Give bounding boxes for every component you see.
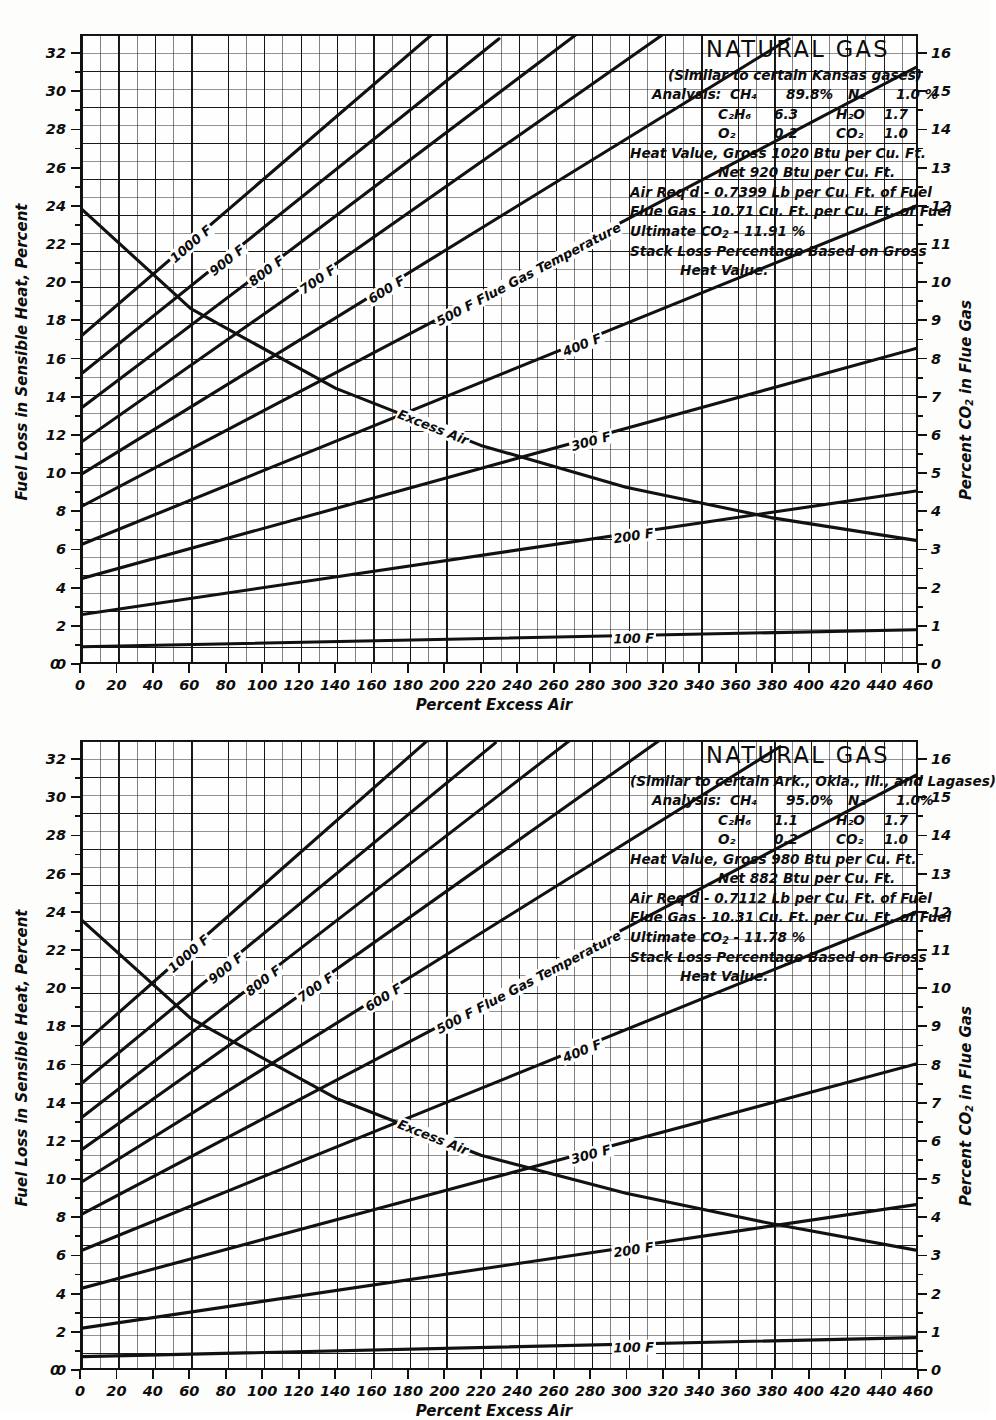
heat-value-gross: Heat Value, Gross 1020 Btu per Cu. Ft. [630,144,960,164]
heat-value-gross: Heat Value, Gross 980 Btu per Cu. Ft. [630,850,960,870]
y-axis-minor-tick-left [75,1083,80,1085]
y-axis-tick-label-left: 16 [46,351,66,367]
y-axis-tick-label-right: 8 [931,1057,941,1073]
x-axis-tick [589,1370,591,1379]
y-axis-tick-label-left: 30 [46,83,66,99]
y-axis-tick-left [71,1025,80,1027]
y-axis-tick-label-right: 3 [931,1247,941,1263]
y-axis-tick-label-right: 6 [931,1133,941,1149]
y-axis-tick-left [71,1140,80,1142]
curve-700-f [82,35,662,442]
y-axis-tick-left [71,1064,80,1066]
x-axis-tick [808,1370,810,1379]
flue-gas-volume: Flue Gas - 10.71 Cu. Ft. per Cu. Ft. of … [630,202,960,222]
y-axis-tick-right [918,472,927,474]
y-axis-minor-tick-left [75,854,80,856]
y-axis-tick-label-left: 28 [46,827,66,843]
y-axis-tick-right [918,1369,927,1371]
x-axis-tick-label: 440 [866,1383,896,1399]
x-axis-tick [480,664,482,673]
x-axis-tick-label: 60 [179,677,199,693]
analysis-row: C₂H₆6.3H₂O1.7 [630,105,960,125]
y-axis-tick-left [71,434,80,436]
x-axis-tick-label: 460 [903,677,933,693]
y-axis-tick-label-left: 24 [46,198,66,214]
annotation-block: NATURAL GAS(Similar to certain Ark., Okl… [630,742,960,987]
y-axis-minor-tick-left [75,339,80,341]
y-axis-tick-right [918,281,927,283]
x-axis-tick-label: 300 [611,677,641,693]
y-axis-minor-tick-right [918,453,923,455]
chart-subtitle: (Similar to certain Ark., Okla., Ill., a… [630,773,960,789]
y-axis-minor-tick-left [75,892,80,894]
x-axis-tick-label: 40 [143,677,163,693]
y-axis-tick-left [71,90,80,92]
ultimate-co2: Ultimate CO2 - 11.91 % [630,222,960,242]
y-axis-tick-right [918,434,927,436]
y-axis-tick-label-left: 26 [46,866,66,882]
x-axis-tick [553,1370,555,1379]
curve-800-f [82,741,572,1117]
x-axis-tick [917,664,919,673]
y-axis-minor-tick-right [918,529,923,531]
y-axis-minor-tick-left [75,186,80,188]
y-axis-minor-tick-left [75,224,80,226]
y-axis-minor-tick-left [75,777,80,779]
y-axis-tick-left [71,52,80,54]
y-axis-tick-label-right: 6 [931,427,941,443]
x-axis-tick-label: 20 [106,1383,126,1399]
analysis-row: C₂H₆1.1H₂O1.7 [630,811,960,831]
y-axis-tick-left [71,987,80,989]
y-axis-tick-left [71,319,80,321]
y-axis-tick-left [71,549,80,551]
x-axis-tick [626,1370,628,1379]
x-axis-tick-label: 420 [830,677,860,693]
x-axis-tick [79,664,81,673]
x-axis-tick [188,664,190,673]
curve-300-f [82,349,916,579]
x-axis-tick [188,1370,190,1379]
x-axis-tick-label: 0 [75,1383,85,1399]
x-axis-tick-label: 180 [393,1383,423,1399]
stack-loss-note-1: Stack Loss Percentage Based on Gross [630,242,960,262]
y-axis-tick-left [71,243,80,245]
y-axis-tick-label-left: 22 [46,236,66,252]
x-axis-tick [407,1370,409,1379]
x-axis-tick [152,664,154,673]
x-axis-tick [917,1370,919,1379]
y-axis-tick-left [71,873,80,875]
y-axis-minor-tick-left [75,1197,80,1199]
analysis-row: Analysis:CH₄95.0%N₂1.0% [630,791,960,811]
y-axis-minor-tick-left [75,71,80,73]
x-axis-tick-label: 180 [393,677,423,693]
x-axis-tick [261,664,263,673]
x-axis-tick [662,1370,664,1379]
analysis-row: O₂0.2CO₂1.0 [630,124,960,144]
curve-300-f [82,1064,916,1288]
y-axis-tick-label-right: 4 [931,1209,941,1225]
y-axis-minor-tick-left [75,568,80,570]
y-axis-tick-left [71,396,80,398]
y-axis-minor-tick-left [75,930,80,932]
y-axis-tick-label-right: 7 [931,1095,941,1111]
x-axis-tick [298,1370,300,1379]
x-axis-tick [443,1370,445,1379]
x-axis-tick [771,664,773,673]
x-axis-tick [152,1370,154,1379]
y-axis-tick-label-right: 7 [931,389,941,405]
y-axis-tick-label-left: 14 [46,389,66,405]
x-axis-tick [735,1370,737,1379]
y-axis-minor-tick-left [75,415,80,417]
y-axis-tick-right [918,358,927,360]
y-axis-tick-label-right: 5 [931,465,941,481]
y-axis-minor-tick-right [918,606,923,608]
x-axis-tick-label: 320 [648,1383,678,1399]
y-axis-minor-tick-right [918,300,923,302]
y-axis-tick-right [918,319,927,321]
y-axis-minor-tick-left [75,300,80,302]
y-axis-minor-tick-left [75,1159,80,1161]
curve-label-100-f: 100 F [612,1339,656,1355]
chart-title: NATURAL GAS [630,742,960,768]
x-axis-tick-label: 20 [106,677,126,693]
